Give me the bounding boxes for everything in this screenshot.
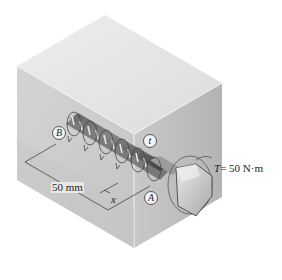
distributed-torque-label: t bbox=[143, 134, 157, 148]
diagram-canvas: B A t 50 mm x T= 50 N·m bbox=[0, 0, 282, 280]
torque-value: = 50 N·m bbox=[220, 162, 263, 174]
position-x-label: x bbox=[111, 194, 116, 205]
length-dimension-label: 50 mm bbox=[51, 182, 84, 193]
applied-torque-label: T= 50 N·m bbox=[214, 163, 263, 174]
block-with-bolt-drawing bbox=[0, 0, 282, 280]
point-a-label: A bbox=[144, 191, 158, 205]
point-b-label: B bbox=[52, 126, 66, 140]
